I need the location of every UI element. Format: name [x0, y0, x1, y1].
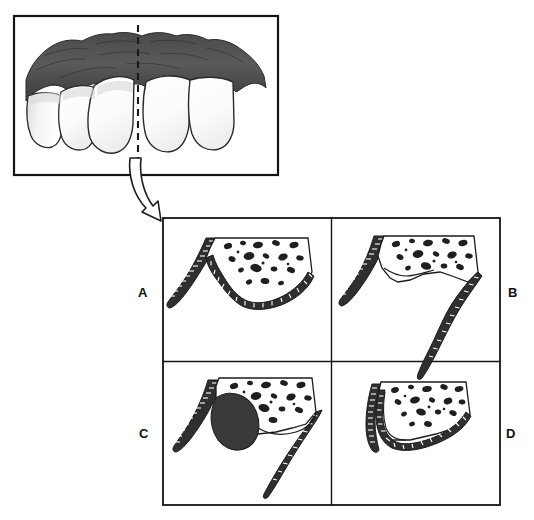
tooth-right-central — [143, 76, 190, 152]
panel-label-c: C — [139, 427, 149, 440]
panel-label-b: B — [508, 286, 518, 299]
tooth-right-lateral — [189, 77, 234, 150]
clinical-photo-group — [14, 16, 278, 175]
dental-bone-loss-figure: A B C D — [0, 0, 534, 520]
figure-canvas — [0, 0, 534, 520]
panel-label-d: D — [506, 427, 516, 440]
panel-label-a: A — [138, 286, 148, 299]
